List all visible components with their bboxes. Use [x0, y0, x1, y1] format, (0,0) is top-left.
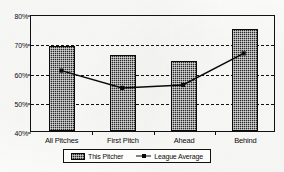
legend-label-this-pitcher: This Pitcher [88, 153, 123, 160]
x-axis-tick-mark [154, 131, 155, 135]
line-series-league-average [31, 16, 274, 131]
plot-area: 80%70%60%50%40% All PitchesFirst PitchAh… [30, 15, 275, 132]
x-axis-category-label: Behind [234, 136, 256, 145]
line-marker-first-pitch [120, 86, 124, 90]
bar-swatch-icon [71, 153, 85, 160]
legend-label-league-average: League Average [154, 153, 203, 160]
x-axis-tick-mark [92, 131, 93, 135]
x-axis-category-label: All Pitches [45, 136, 78, 145]
line-marker-ahead [181, 83, 185, 87]
chart-page: 80%70%60%50%40% All PitchesFirst PitchAh… [0, 0, 284, 172]
chart-legend: This Pitcher League Average [63, 149, 211, 163]
y-axis-tick-label: 50% [15, 100, 28, 107]
line-marker-all-pitches [59, 69, 63, 73]
legend-item-league-average: League Average [136, 153, 203, 160]
line-marker-swatch-icon [136, 153, 151, 160]
y-axis-tick-label: 60% [15, 71, 28, 78]
x-axis-category-label: First Pitch [107, 136, 139, 145]
y-axis-tick-label: 70% [15, 42, 28, 49]
line-marker-behind [242, 51, 246, 55]
x-axis-category-label: Ahead [174, 136, 195, 145]
y-axis-tick-label: 40% [15, 130, 28, 137]
y-axis-tick-label: 80% [15, 13, 28, 20]
y-axis-tick-mark [28, 133, 31, 134]
x-axis-tick-mark [215, 131, 216, 135]
legend-item-this-pitcher: This Pitcher [71, 153, 123, 160]
